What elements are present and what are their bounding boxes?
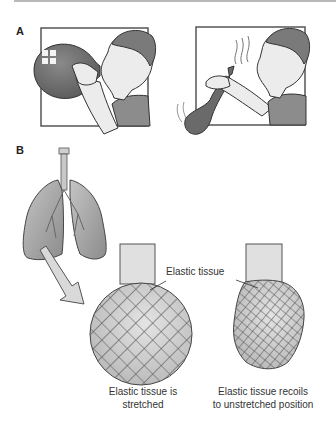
panel-a-deflating [177,27,309,134]
balloon-highlight [42,50,48,56]
trachea [61,154,67,190]
shirt-left [112,95,150,126]
caption-recoiled-line1: Elastic tissue recoils [198,385,328,398]
hand-right [206,76,230,89]
elastic-mesh-stretched [88,280,198,390]
motion-lines [177,102,186,122]
pointer-arrow [40,246,84,304]
larynx [59,148,69,154]
figure-illustration [0,0,336,430]
elastic-tissue-label: Elastic tissue [166,266,224,277]
alveolus-recoiled [228,244,308,376]
caption-recoiled: Elastic tissue recoils to unstretched po… [198,385,328,411]
air-lines [235,36,249,64]
lungs-illustration [23,148,106,260]
caption-recoiled-line2: to unstretched position [198,398,328,411]
lung-left-side [70,180,106,259]
panel-a-inflating [34,28,156,134]
shirt-right [268,94,306,125]
caption-stretched: Elastic tissue is stretched [93,385,193,411]
airway-tube-left [120,244,155,284]
airway-tube-right [246,244,282,284]
caption-stretched-line2: stretched [93,398,193,411]
caption-stretched-line1: Elastic tissue is [93,385,193,398]
